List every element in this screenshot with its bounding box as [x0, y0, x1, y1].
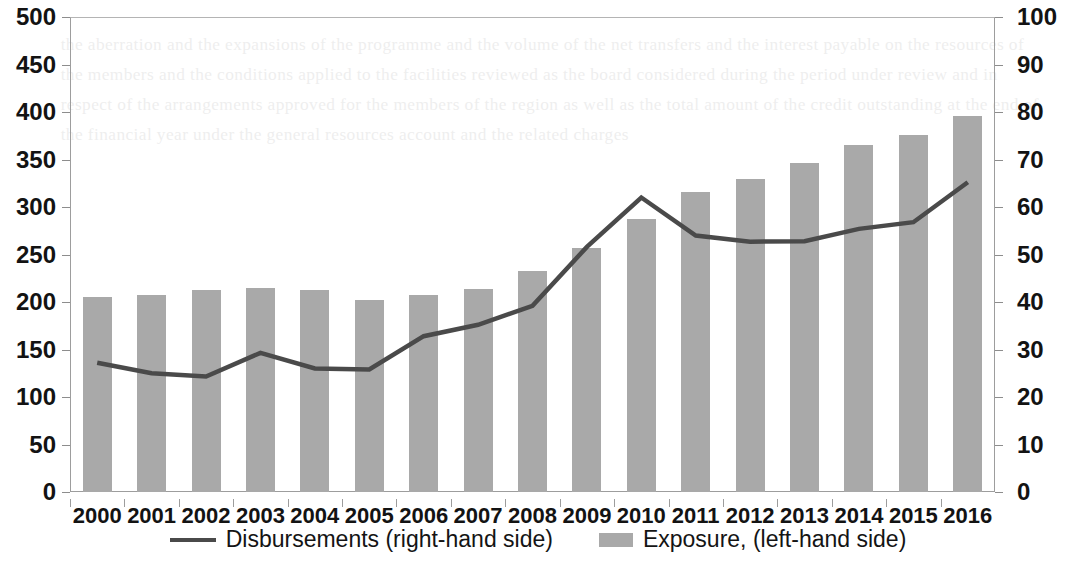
x-axis-tick-mark: [451, 499, 452, 507]
x-axis-tick-label: 2004: [288, 505, 342, 527]
chart-container: the aberration and the expansions of the…: [0, 0, 1076, 567]
x-axis-tick-label: 2009: [560, 505, 614, 527]
x-axis-tick-mark: [70, 499, 71, 507]
x-axis-tick-mark: [723, 499, 724, 507]
legend-item-disbursements: Disbursements (right-hand side): [170, 528, 553, 551]
x-axis-tick-label: 2008: [505, 505, 559, 527]
x-axis-tick-label: 2013: [777, 505, 831, 527]
x-axis-tick-mark: [669, 499, 670, 507]
line-swatch-icon: [170, 538, 216, 542]
x-axis-tick-mark: [560, 499, 561, 507]
x-axis-tick-label: 2006: [396, 505, 450, 527]
line-series-disbursements: [0, 0, 1076, 567]
bar-swatch-icon: [599, 533, 633, 547]
x-axis-tick-label: 2015: [886, 505, 940, 527]
legend-item-exposure: Exposure, (left-hand side): [599, 528, 906, 551]
x-axis-tick-mark: [233, 499, 234, 507]
x-axis-tick-label: 2010: [614, 505, 668, 527]
x-axis-tick-mark: [396, 499, 397, 507]
x-axis-tick-mark: [179, 499, 180, 507]
legend-label-exposure: Exposure, (left-hand side): [643, 528, 906, 551]
x-axis-tick-mark: [886, 499, 887, 507]
x-axis-tick-mark: [342, 499, 343, 507]
x-axis-tick-label: 2011: [669, 505, 723, 527]
x-axis-tick-label: 2007: [451, 505, 505, 527]
x-axis-tick-mark: [505, 499, 506, 507]
x-axis-tick-mark: [777, 499, 778, 507]
x-axis-tick-label: 2003: [233, 505, 287, 527]
x-axis-tick-label: 2016: [941, 505, 995, 527]
x-axis-tick-label: 2000: [70, 505, 124, 527]
x-axis-tick-mark: [941, 499, 942, 507]
x-axis-tick-label: 2002: [179, 505, 233, 527]
x-axis-tick-label: 2014: [832, 505, 886, 527]
chart-legend: Disbursements (right-hand side) Exposure…: [0, 528, 1076, 551]
legend-label-disbursements: Disbursements (right-hand side): [226, 528, 553, 551]
x-axis-tick-label: 2005: [342, 505, 396, 527]
line-path: [97, 182, 968, 376]
x-axis-tick-label: 2001: [124, 505, 178, 527]
x-axis-tick-mark: [832, 499, 833, 507]
x-axis-tick-mark: [288, 499, 289, 507]
x-axis-tick-label: 2012: [723, 505, 777, 527]
x-axis-tick-mark: [614, 499, 615, 507]
x-axis-tick-mark: [124, 499, 125, 507]
